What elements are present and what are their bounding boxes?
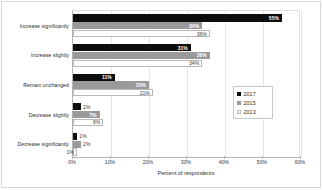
plot-area: Increase significantly55%34%36%Increase … [72,10,300,158]
bar-value-label: 8% [93,119,100,125]
legend-swatch-icon-2015 [237,101,241,105]
bar-value-label: 34% [189,60,199,66]
bar-value-label: 7% [89,112,96,118]
bar-value-label: 55% [269,15,279,21]
legend-label-2015: 2015 [244,100,256,106]
bar-row: 34% [73,22,299,29]
bar-chart: Increase significantly55%34%36%Increase … [0,0,323,190]
bar-value-label: 36% [197,52,207,58]
bar-2017[interactable] [73,133,77,140]
bar-2015[interactable] [73,141,81,148]
bar-2017[interactable] [73,103,81,110]
category-group: Decrease significantly1%2%1% [73,129,299,159]
legend-swatch-icon-2017 [237,92,241,96]
x-axis-tick-label: 50% [257,159,267,165]
bar-row: 36% [73,52,299,59]
legend-label-2013: 2013 [244,109,256,115]
category-group: Increase significantly55%34%36% [73,11,299,41]
bar-row: 55% [73,14,299,21]
bar-2013[interactable] [73,60,202,67]
bar-value-label: 11% [102,74,112,80]
x-axis-tick-label: 60% [295,159,305,165]
chart-legend: 2017 2015 2013 [233,86,273,119]
bar-row: 11% [73,74,299,81]
bar-2017[interactable] [73,44,191,51]
x-axis-tick-label: 30% [181,159,191,165]
bar-value-label: 36% [197,31,207,37]
x-axis-title: Percent of respondents [72,170,300,176]
bar-value-label: 2% [83,104,90,110]
bar-value-label: 31% [178,45,188,51]
x-axis-tick-label: 10% [105,159,115,165]
category-label: Decrease significantly [17,141,69,147]
legend-swatch-icon-2013 [237,110,241,114]
category-label: Increase significantly [20,23,69,29]
bar-value-label: 20% [136,82,146,88]
bar-2017[interactable] [73,14,282,21]
legend-label-2017: 2017 [244,91,256,97]
legend-item-2017[interactable]: 2017 [237,89,269,98]
category-label: Increase slightly [31,52,69,58]
bar-2013[interactable] [73,30,210,37]
bar-row: 31% [73,44,299,51]
bar-value-label: 2% [83,141,90,147]
gridline [301,11,302,157]
x-axis-tick-labels: 0%10%20%30%40%50%60% [72,159,300,169]
category-label: Remain unchanged [23,82,69,88]
category-label: Decrease slightly [29,112,69,118]
bar-value-label: 21% [140,90,150,96]
bar-row: 36% [73,30,299,37]
category-group: Increase slightly31%36%34% [73,41,299,71]
bar-row: 34% [73,60,299,67]
bar-value-label: 1% [66,149,73,155]
bar-value-label: 1% [79,133,86,139]
bar-row: 1% [73,133,299,140]
x-axis-tick-label: 20% [143,159,153,165]
bar-2015[interactable] [73,22,202,29]
legend-item-2013[interactable]: 2013 [237,107,269,116]
bar-row: 2% [73,141,299,148]
bar-row: 8% [73,119,299,126]
legend-item-2015[interactable]: 2015 [237,98,269,107]
bar-row: 1% [73,148,299,155]
bar-value-label: 34% [189,23,199,29]
x-axis-tick-label: 0% [68,159,76,165]
x-axis-tick-label: 40% [219,159,229,165]
bar-2015[interactable] [73,52,210,59]
